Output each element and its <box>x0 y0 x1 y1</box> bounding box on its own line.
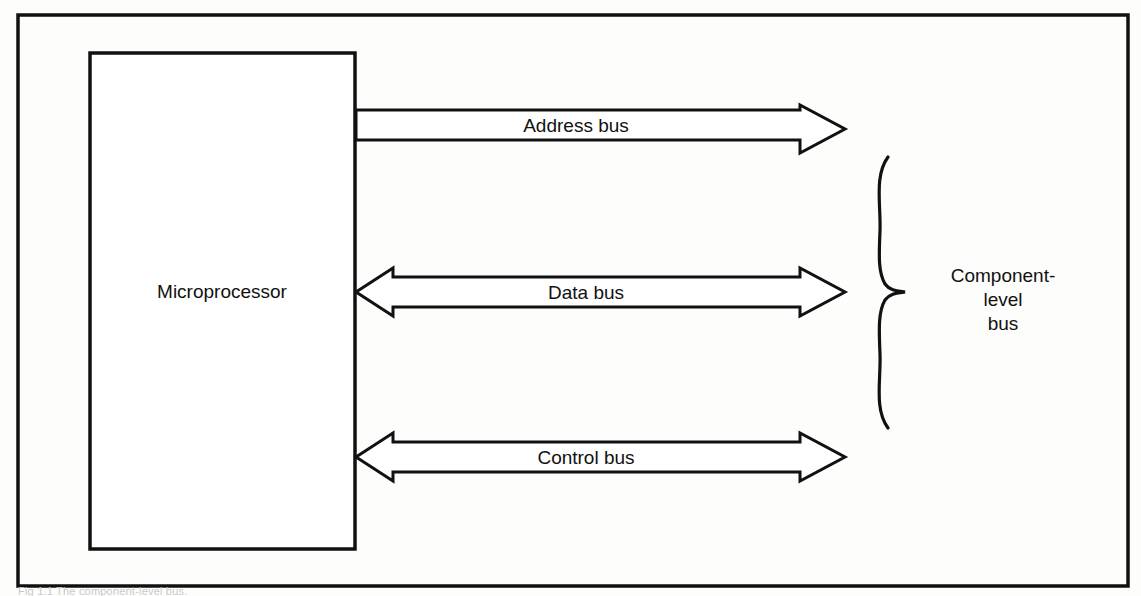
address-bus-label: Address bus <box>523 115 629 136</box>
figure-page: Microprocessor Address bus Data bus Cont… <box>0 0 1141 596</box>
brace-label-line-1: Component- <box>951 265 1056 286</box>
data-bus-label: Data bus <box>548 282 624 303</box>
brace-label-line-3: bus <box>988 313 1019 334</box>
figure-caption: Fig 1.1 The component-level bus. <box>18 585 187 596</box>
microprocessor-label: Microprocessor <box>157 281 288 302</box>
component-level-bus-diagram: Microprocessor Address bus Data bus Cont… <box>0 0 1141 596</box>
brace-label-line-2: level <box>983 289 1022 310</box>
control-bus-label: Control bus <box>537 447 634 468</box>
component-level-bus-brace <box>879 157 905 428</box>
